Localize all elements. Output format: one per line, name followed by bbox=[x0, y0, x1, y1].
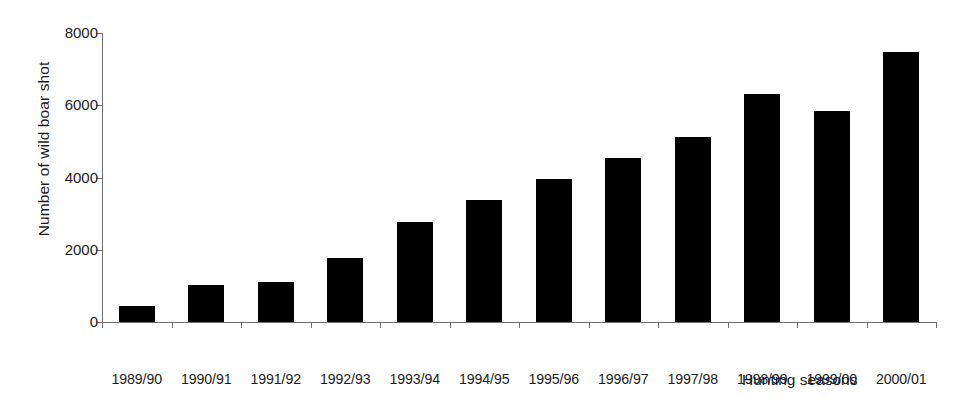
x-tick-label: 1994/95 bbox=[450, 371, 520, 387]
x-tick bbox=[867, 322, 868, 328]
bar-chart: Number of wild boar shot 020004000600080… bbox=[0, 0, 958, 406]
x-tick bbox=[450, 322, 451, 328]
x-tick-label: 1991/92 bbox=[241, 371, 311, 387]
x-tick bbox=[936, 322, 937, 328]
x-tick-label: 1990/91 bbox=[172, 371, 242, 387]
bar bbox=[188, 285, 224, 322]
x-tick bbox=[797, 322, 798, 328]
bar bbox=[675, 137, 711, 322]
x-tick bbox=[241, 322, 242, 328]
bar bbox=[605, 158, 641, 322]
y-axis-line bbox=[102, 33, 103, 323]
x-tick bbox=[658, 322, 659, 328]
x-tick bbox=[589, 322, 590, 328]
y-tick-label: 4000 bbox=[28, 170, 98, 185]
x-tick bbox=[380, 322, 381, 328]
plot-area: 02000400060008000 1989/901990/911991/921… bbox=[102, 33, 936, 322]
x-tick-label: 2000/01 bbox=[867, 371, 937, 387]
bar bbox=[883, 52, 919, 322]
bar bbox=[744, 94, 780, 322]
x-tick bbox=[172, 322, 173, 328]
bar bbox=[814, 111, 850, 322]
x-axis-title: Hunting seasons bbox=[742, 371, 857, 389]
bar bbox=[397, 222, 433, 322]
bar bbox=[466, 200, 502, 322]
bar bbox=[327, 258, 363, 322]
x-tick-label: 1995/96 bbox=[519, 371, 589, 387]
y-tick-label: 6000 bbox=[28, 97, 98, 112]
x-tick-label: 1993/94 bbox=[380, 371, 450, 387]
x-tick-label: 1996/97 bbox=[589, 371, 659, 387]
x-tick bbox=[519, 322, 520, 328]
x-tick bbox=[311, 322, 312, 328]
x-tick-label: 1992/93 bbox=[311, 371, 381, 387]
bar bbox=[119, 306, 155, 322]
bar bbox=[536, 179, 572, 322]
bar bbox=[258, 282, 294, 322]
x-tick-label: 1989/90 bbox=[102, 371, 172, 387]
x-tick-label: 1997/98 bbox=[658, 371, 728, 387]
y-tick-label: 8000 bbox=[28, 25, 98, 40]
y-tick-label: 0 bbox=[28, 314, 98, 329]
x-tick bbox=[102, 322, 103, 328]
x-tick bbox=[728, 322, 729, 328]
y-axis-title: Number of wild boar shot bbox=[35, 19, 53, 279]
y-tick-label: 2000 bbox=[28, 242, 98, 257]
